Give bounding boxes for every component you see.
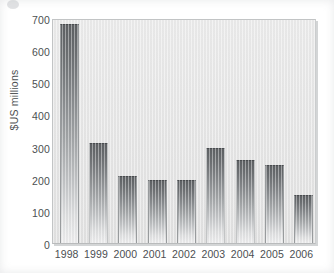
bar-2003 (206, 148, 225, 243)
bar-2002 (177, 180, 196, 243)
bar-2001 (148, 180, 167, 243)
bar-2005 (265, 165, 284, 243)
bar-1999 (89, 143, 108, 243)
y-tick-label: 0 (22, 240, 50, 250)
x-tick-label: 2006 (285, 248, 318, 260)
plot-area (52, 19, 316, 244)
bar-series (53, 20, 315, 243)
x-tick-label: 2004 (226, 248, 259, 260)
x-tick-label: 2002 (167, 248, 200, 260)
x-tick-label: 1999 (79, 248, 112, 260)
y-tick-label: 500 (22, 79, 50, 89)
scan-artifact-icon (7, 0, 19, 9)
x-tick-label: 1998 (50, 248, 83, 260)
x-tick-label: 2003 (197, 248, 230, 260)
bar-2006 (294, 195, 313, 243)
y-tick-label: 400 (22, 111, 50, 121)
y-tick-label: 300 (22, 144, 50, 154)
x-tick-label: 2005 (255, 248, 288, 260)
bar-2000 (118, 176, 137, 244)
y-tick-label: 700 (22, 15, 50, 25)
y-tick-label: 200 (22, 176, 50, 186)
x-tick-label: 2001 (138, 248, 171, 260)
y-tick-label: 600 (22, 47, 50, 57)
bar-2004 (236, 160, 255, 243)
x-axis-tick-labels: 199819992000200120022003200420052006 (52, 248, 316, 266)
y-axis-title: $US millions (8, 65, 20, 135)
y-tick-label: 100 (22, 208, 50, 218)
bar-1998 (60, 24, 79, 243)
y-axis-tick-labels: 0100200300400500600700 (22, 0, 50, 273)
x-tick-label: 2000 (109, 248, 142, 260)
bar-chart-figure: $US millions 0100200300400500600700 1998… (0, 0, 334, 273)
